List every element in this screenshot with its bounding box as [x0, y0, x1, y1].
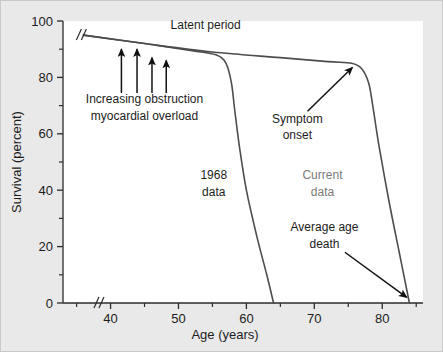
y-tick-label: 100 — [31, 14, 53, 29]
y-tick-label: 20 — [39, 239, 53, 254]
annotation-average-age-death-2: death — [309, 237, 339, 251]
annotation-data-1968: 1968 — [200, 168, 227, 182]
annotation-symptom-onset: Symptom — [272, 112, 323, 126]
annotation-latent-period: Latent period — [171, 18, 241, 32]
figure-container: 0204060801004050607080 Latent periodIncr… — [0, 0, 443, 352]
survival-curve-chart: 0204060801004050607080 Latent periodIncr… — [1, 1, 443, 352]
annotation-current-data-2: data — [311, 185, 335, 199]
y-tick-label: 80 — [39, 70, 53, 85]
y-tick-label: 40 — [39, 183, 53, 198]
y-axis-title: Survival (percent) — [9, 111, 24, 213]
x-tick-label: 50 — [171, 311, 185, 326]
annotation-increasing-obstruction: Increasing obstruction — [86, 92, 203, 106]
x-tick-label: 60 — [239, 311, 253, 326]
y-tick-label: 60 — [39, 126, 53, 141]
annotation-average-age-death: Average age — [291, 220, 359, 234]
annotation-symptom-onset-2: onset — [283, 128, 313, 142]
x-axis-title: Age (years) — [191, 327, 258, 342]
annotation-data-1968-2: data — [202, 185, 226, 199]
plot-background — [63, 21, 423, 303]
annotation-current-data: Current — [302, 168, 343, 182]
annotation-myocardial-overload: myocardial overload — [91, 109, 198, 123]
y-tick-label: 0 — [46, 296, 53, 311]
x-tick-label: 70 — [307, 311, 321, 326]
x-tick-label: 40 — [103, 311, 117, 326]
x-tick-label: 80 — [375, 311, 389, 326]
